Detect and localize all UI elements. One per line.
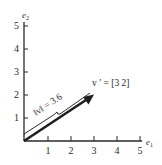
x-axis-label: e1 — [146, 137, 153, 148]
y-tick-label-2: 2 — [14, 89, 19, 100]
x-tick-label-1: 1 — [46, 145, 51, 156]
y-tick-label-5: 5 — [14, 20, 19, 31]
x-tick-label-3: 3 — [92, 145, 97, 156]
vector-label: v ′ = [3 2] — [92, 78, 130, 88]
x-ticks — [48, 136, 140, 141]
y-tick-label-4: 4 — [14, 43, 19, 54]
x-tick-label-5: 5 — [138, 145, 143, 156]
vector-diagram: 1 2 3 4 5 1 2 3 4 5 e2 e1 ‖v‖ = 3.6 v ′ … — [0, 0, 162, 165]
x-tick-label-4: 4 — [115, 145, 120, 156]
y-tick-label-1: 1 — [14, 112, 19, 123]
x-tick-label-2: 2 — [69, 145, 74, 156]
y-tick-label-3: 3 — [14, 66, 19, 77]
y-axis-label: e2 — [22, 10, 29, 21]
